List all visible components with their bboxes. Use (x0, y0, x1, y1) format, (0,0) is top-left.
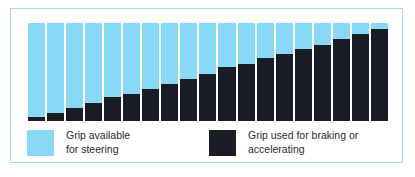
bar-segment-grip-available (199, 23, 216, 74)
bar-segment-grip-available (218, 23, 235, 67)
chart-bar (275, 23, 294, 121)
legend-item-grip-available: Grip available for steering (27, 129, 130, 156)
bar-segment-grip-available (180, 23, 197, 79)
bar-segment-grip-available (28, 23, 45, 117)
bar-segment-grip-used (66, 108, 83, 121)
bar-segment-grip-used (123, 94, 140, 121)
bar-segment-grip-used (199, 74, 216, 121)
bar-segment-grip-available (295, 23, 312, 49)
bar-segment-grip-used (276, 54, 293, 121)
chart-bar (313, 23, 332, 121)
chart-bar (256, 23, 275, 121)
bar-segment-grip-available (104, 23, 121, 97)
bar-segment-grip-used (47, 113, 64, 121)
bar-segment-grip-available (314, 23, 331, 45)
legend-label-grip-used-line1: Grip used for braking or (248, 129, 358, 143)
bar-segment-grip-used (352, 34, 369, 121)
chart-bar (122, 23, 141, 121)
bar-segment-grip-available (276, 23, 293, 54)
bar-segment-grip-available (238, 23, 255, 64)
chart-bar (351, 23, 370, 121)
legend-label-grip-used-line2: accelerating (248, 143, 358, 157)
grip-budget-figure: Grip available for steering Grip used fo… (0, 0, 415, 177)
legend-label-grip-available-line1: Grip available (66, 129, 130, 143)
chart-bar (332, 23, 351, 121)
bar-segment-grip-available (352, 23, 369, 34)
bar-segment-grip-used (180, 79, 197, 121)
bar-segment-grip-used (295, 49, 312, 121)
bar-segment-grip-available (142, 23, 159, 89)
chart-bar (198, 23, 217, 121)
bar-segment-grip-used (161, 84, 178, 121)
bar-segment-grip-available (161, 23, 178, 84)
chart-bar (294, 23, 313, 121)
bar-segment-grip-used (238, 64, 255, 121)
chart-bar (84, 23, 103, 121)
stacked-bar-chart (27, 23, 389, 121)
bar-segment-grip-used (314, 45, 331, 121)
bar-segment-grip-used (104, 97, 121, 121)
bar-segment-grip-used (371, 29, 388, 121)
bar-segment-grip-used (28, 117, 45, 121)
bar-segment-grip-available (66, 23, 83, 108)
chart-bar (27, 23, 46, 121)
chart-bar (370, 23, 389, 121)
bar-segment-grip-available (123, 23, 140, 94)
bar-segment-grip-used (257, 58, 274, 121)
bar-segment-grip-used (218, 67, 235, 121)
chart-legend: Grip available for steering Grip used fo… (27, 129, 387, 161)
bar-segment-grip-available (85, 23, 102, 103)
chart-bar (65, 23, 84, 121)
legend-swatch-grip-used (209, 130, 236, 156)
chart-bar (217, 23, 236, 121)
bar-segment-grip-available (257, 23, 274, 58)
chart-bar (103, 23, 122, 121)
legend-label-grip-used: Grip used for braking or accelerating (248, 129, 358, 156)
bar-segment-grip-used (142, 89, 159, 121)
chart-bar (160, 23, 179, 121)
legend-label-grip-available: Grip available for steering (66, 129, 130, 156)
figure-frame: Grip available for steering Grip used fo… (10, 8, 403, 163)
bar-segment-grip-available (333, 23, 350, 39)
bar-segment-grip-available (47, 23, 64, 113)
bar-segment-grip-used (333, 39, 350, 121)
legend-swatch-grip-available (27, 130, 54, 156)
legend-label-grip-available-line2: for steering (66, 143, 130, 157)
chart-bar (141, 23, 160, 121)
chart-bar (179, 23, 198, 121)
chart-bar (46, 23, 65, 121)
legend-item-grip-used: Grip used for braking or accelerating (209, 129, 358, 156)
chart-bar (237, 23, 256, 121)
bar-segment-grip-used (85, 103, 102, 121)
